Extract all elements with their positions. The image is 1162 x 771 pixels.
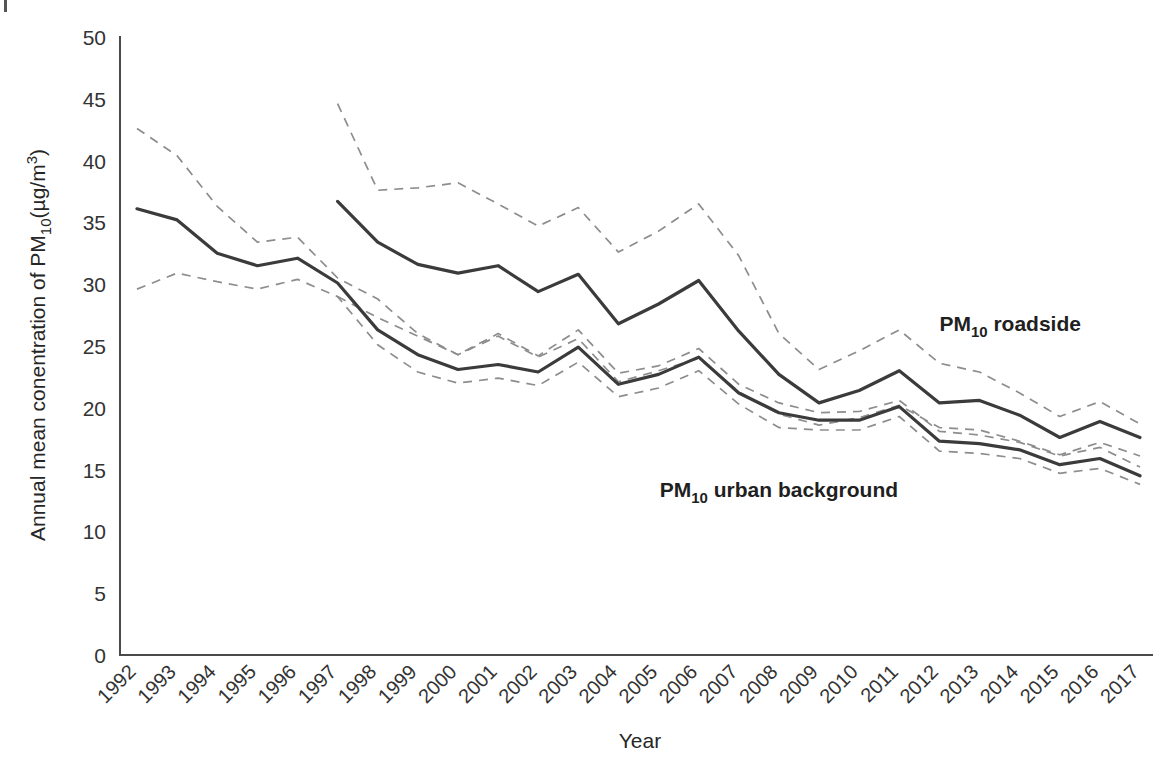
x-tick-1998: 1998 [334,660,381,707]
x-tick-1995: 1995 [213,660,260,707]
x-tick-2007: 2007 [695,660,742,707]
y-tick-30: 30 [83,273,106,296]
chart-figure: 05101520253035404550 1992199319941995199… [0,0,1162,771]
y-tick-35: 35 [83,211,106,234]
x-axis-tick-labels: 1992199319941995199619971998199920002001… [93,660,1143,707]
y-axis-tick-labels: 05101520253035404550 [83,26,106,667]
x-tick-2005: 2005 [614,660,661,707]
x-tick-2004: 2004 [574,660,621,707]
x-tick-2013: 2013 [935,660,982,707]
confidence-band-lines [137,104,1140,485]
x-tick-2015: 2015 [1016,660,1063,707]
y-tick-5: 5 [94,582,106,605]
x-tick-2001: 2001 [454,660,501,707]
y-tick-15: 15 [83,459,106,482]
page-crop-mark [4,0,7,12]
x-tick-1997: 1997 [293,660,340,707]
y-axis-title: Annual mean conentration of PM10(µg/m3) [23,149,54,541]
x-tick-2000: 2000 [414,660,461,707]
x-tick-1999: 1999 [374,660,421,707]
axis-lines [120,37,1152,655]
series-1-upper-band [137,129,1140,468]
x-tick-2017: 2017 [1096,660,1143,707]
x-tick-2014: 2014 [975,660,1022,707]
series-lines [137,201,1140,475]
x-tick-1992: 1992 [93,660,140,707]
x-tick-2008: 2008 [735,660,782,707]
x-tick-1996: 1996 [253,660,300,707]
annotation-pm10-roadside: PM10 roadside [939,312,1081,340]
x-axis-title: Year [619,729,661,752]
x-tick-1993: 1993 [133,660,180,707]
series-0-upper-band [338,104,1140,424]
series-line-pm10-urban-background [137,209,1140,476]
x-tick-2012: 2012 [895,660,942,707]
x-tick-2016: 2016 [1056,660,1103,707]
x-tick-2011: 2011 [856,660,902,706]
x-tick-2009: 2009 [775,660,822,707]
y-tick-0: 0 [94,644,106,667]
x-tick-2002: 2002 [494,660,541,707]
annotation-pm10-urban-background: PM10 urban background [660,478,898,506]
x-tick-2006: 2006 [654,660,701,707]
x-tick-2003: 2003 [534,660,581,707]
y-tick-45: 45 [83,88,106,111]
x-tick-1994: 1994 [173,660,220,707]
pm10-trend-chart: 05101520253035404550 1992199319941995199… [0,0,1162,771]
y-tick-10: 10 [83,520,106,543]
y-tick-40: 40 [83,150,106,173]
y-tick-20: 20 [83,397,106,420]
x-tick-2010: 2010 [815,660,862,707]
y-tick-25: 25 [83,335,106,358]
y-tick-50: 50 [83,26,106,49]
